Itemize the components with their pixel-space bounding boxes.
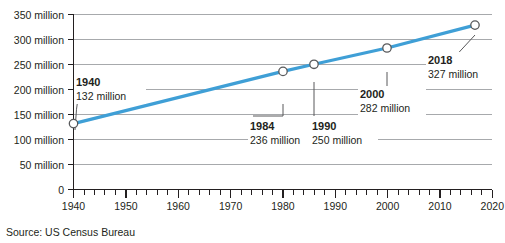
annotation-1990: 1990 250 million [310, 118, 378, 148]
x-tick-label: 2010 [428, 200, 452, 212]
y-tick-label: 200 million [14, 84, 64, 96]
x-tick-label: 1970 [219, 200, 243, 212]
y-tick-label: 300 million [14, 34, 64, 46]
x-tick-label: 1940 [62, 200, 86, 212]
data-point-2018[interactable] [471, 21, 479, 29]
data-point-2000[interactable] [383, 44, 391, 52]
y-tick-label: 50 million [20, 159, 65, 171]
x-tick-label: 1950 [114, 200, 138, 212]
x-axis-labels: 1940 1950 1960 1970 1980 1990 2000 2010 … [62, 200, 504, 212]
annotation-2000: 2000 282 million [358, 86, 426, 116]
data-point-1984[interactable] [279, 67, 287, 75]
population-line-chart: 350 million 300 million 250 million 200 … [0, 0, 505, 243]
annotation-1940-value: 132 million [76, 90, 126, 102]
annotation-1984: 1984 236 million [248, 118, 313, 148]
annotation-1990-value: 250 million [312, 134, 362, 146]
data-point-1990[interactable] [310, 60, 318, 68]
data-point-1940[interactable] [69, 119, 77, 127]
annotation-1984-value: 236 million [250, 134, 300, 146]
x-tick-label: 2000 [376, 200, 400, 212]
annotation-1984-year: 1984 [250, 120, 275, 132]
y-tick-label: 250 million [14, 59, 64, 71]
y-tick-label: 0 [58, 184, 64, 196]
x-tick-label: 1980 [271, 200, 295, 212]
x-tick-label: 1990 [324, 200, 348, 212]
annotation-1940-year: 1940 [76, 76, 100, 88]
annotation-1990-year: 1990 [312, 120, 336, 132]
y-tick-label: 150 million [14, 109, 64, 121]
annotation-2000-value: 282 million [360, 102, 410, 114]
annotation-2000-year: 2000 [360, 88, 384, 100]
x-tick-label: 2020 [481, 200, 505, 212]
annotation-1940: 1940 132 million [74, 74, 146, 104]
y-tick-label: 350 million [14, 9, 64, 21]
y-tick-label: 100 million [14, 134, 64, 146]
x-tick-label: 1960 [167, 200, 191, 212]
annotation-2018-year: 2018 [428, 54, 452, 66]
source-note: Source: US Census Bureau [6, 226, 135, 238]
annotation-2018: 2018 327 million [426, 52, 496, 82]
annotation-2018-value: 327 million [428, 68, 478, 80]
